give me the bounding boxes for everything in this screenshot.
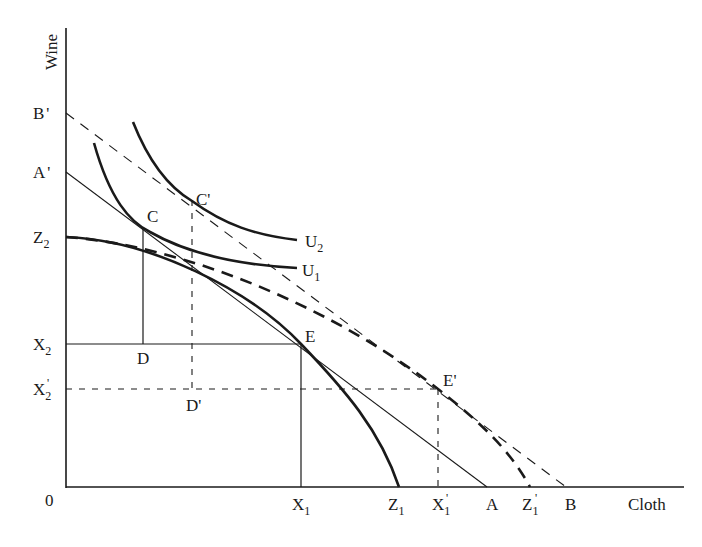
svg-text:U2: U2 [305,232,323,255]
point-e-label: E [305,327,315,346]
label-z2: Z2 [33,228,49,251]
svg-text:A: A [486,495,499,514]
label-b: B [565,495,576,514]
svg-text:X2: X2 [33,335,51,358]
price-line-bb [66,113,566,487]
label-u1: U1 [302,261,320,284]
svg-text:': ' [47,376,49,390]
label-x2: X2 [33,335,51,358]
svg-text:X1: X1 [292,495,310,518]
trade-diagram: Wine Cloth 0 B' A' Z2 X2 X2 ' X1 Z1 X1 [0,0,702,547]
label-a: A [486,495,499,514]
svg-text:': ' [535,491,537,505]
point-d-prime-label: D' [186,396,201,415]
label-x2-prime: X2 ' [33,376,51,403]
ppf-curve-expanded [66,237,530,487]
svg-text:': ' [446,491,448,505]
svg-text:A': A' [33,163,50,182]
y-axis-title: Wine [42,34,61,70]
point-e-prime-label: E' [443,371,456,390]
label-x1: X1 [292,495,310,518]
label-z1: Z1 [388,495,404,518]
x-axis-title: Cloth [628,495,666,514]
svg-text:B': B' [33,104,49,123]
origin-label: 0 [45,491,54,510]
svg-text:Z2: Z2 [33,228,49,251]
svg-text:Z1: Z1 [388,495,404,518]
ppf-curve-original [66,237,399,487]
label-a-prime: A' [33,163,50,182]
point-d-label: D [137,349,149,368]
label-x1-prime: X1 ' [432,491,450,518]
svg-text:U1: U1 [302,261,320,284]
svg-text:B: B [565,495,576,514]
price-line-aa [66,172,487,487]
label-b-prime: B' [33,104,49,123]
point-c-prime-label: C' [196,190,210,209]
point-c-label: C [147,207,158,226]
label-z1-prime: Z1 ' [522,491,538,518]
label-u2: U2 [305,232,323,255]
